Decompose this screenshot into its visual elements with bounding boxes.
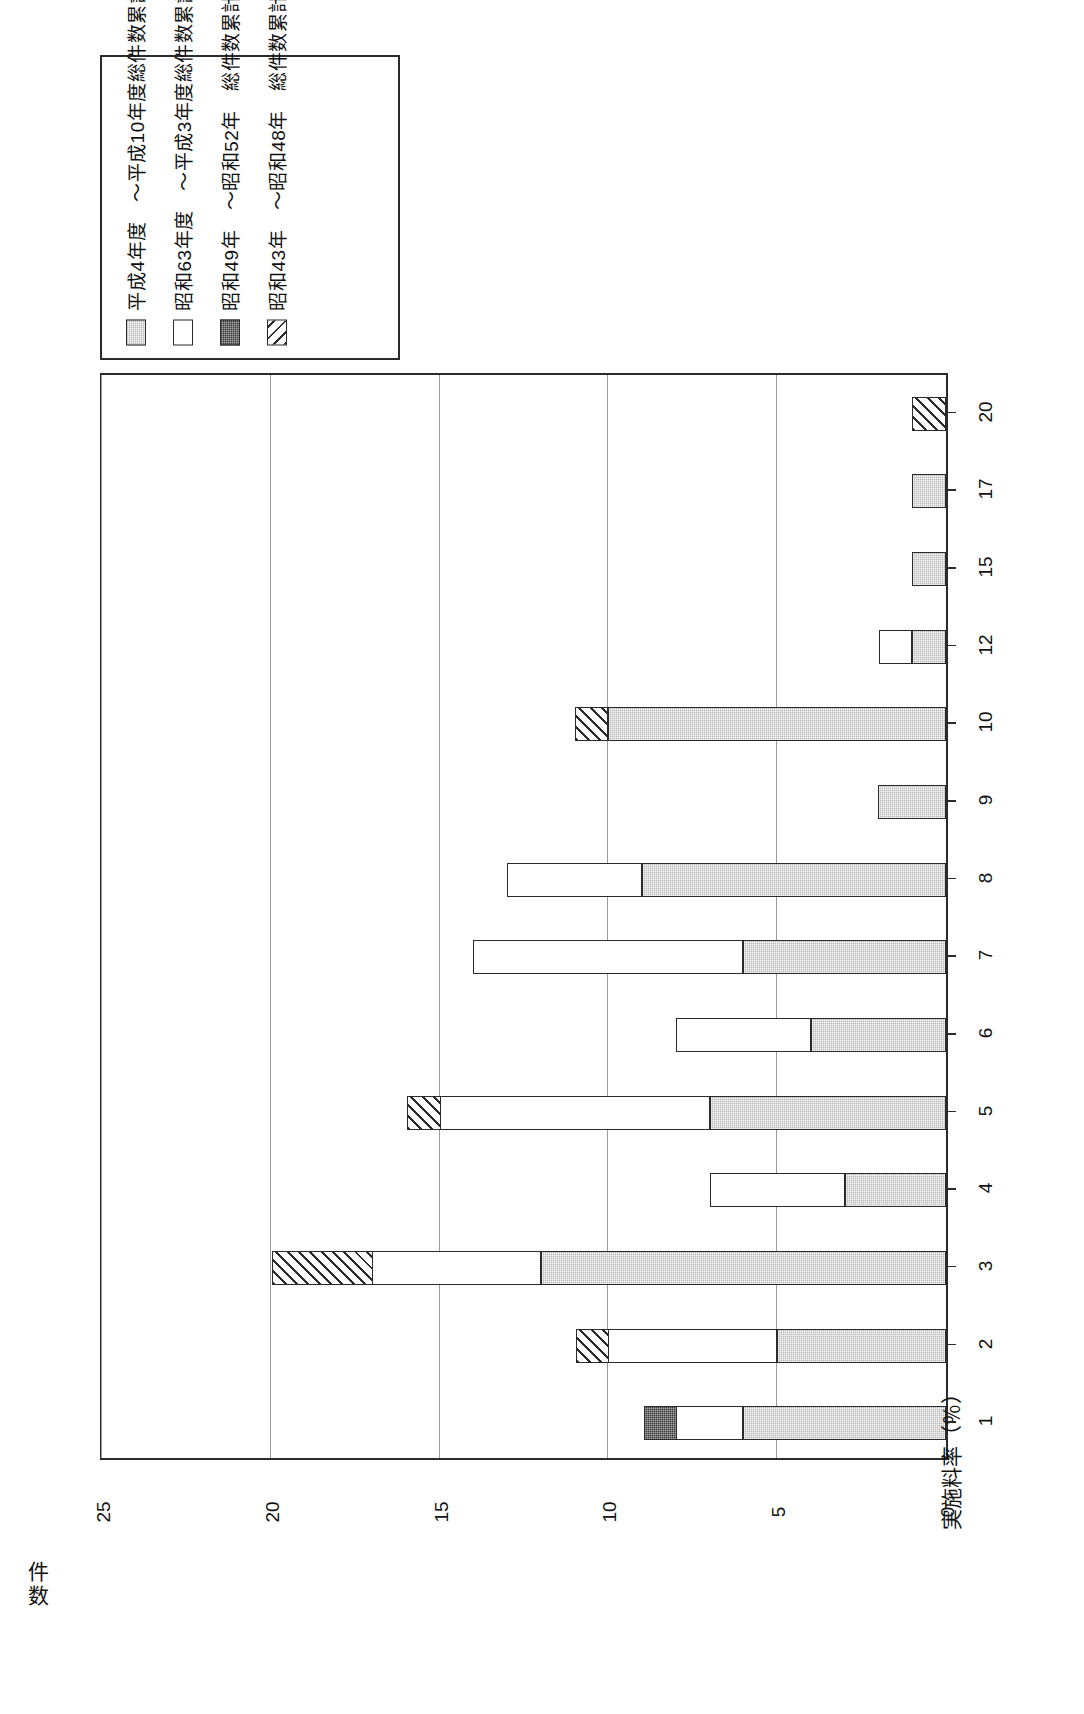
bar-row bbox=[912, 474, 946, 508]
bar-segment bbox=[676, 1406, 744, 1440]
legend-item: 昭和63年度 ～平成3年度総件数累計 bbox=[159, 0, 206, 345]
bar-segment bbox=[912, 630, 946, 664]
category-tick-mark bbox=[948, 1266, 956, 1268]
legend-label: 昭和43年 ～昭和48年 総件数累計 bbox=[263, 0, 290, 310]
bar-segment bbox=[912, 397, 946, 431]
category-tick-label: 10 bbox=[975, 702, 997, 742]
category-tick-mark bbox=[948, 878, 956, 880]
bar-segment bbox=[912, 474, 946, 508]
legend-item: 昭和43年 ～昭和48年 総件数累計 bbox=[253, 0, 300, 345]
category-tick-mark bbox=[948, 800, 956, 802]
bar-segment bbox=[507, 863, 642, 897]
category-tick-label: 5 bbox=[975, 1091, 997, 1131]
gridline bbox=[270, 375, 271, 1458]
bar-segment bbox=[608, 707, 946, 741]
value-tick-label: 5 bbox=[769, 1492, 789, 1532]
legend-swatch-hatch-icon bbox=[267, 319, 287, 345]
category-tick-label: 1 bbox=[975, 1401, 997, 1441]
legend-swatch-dark-icon bbox=[220, 319, 240, 345]
value-tick-label: 15 bbox=[432, 1492, 452, 1532]
legend-items: 平成4年度 ～平成10年度総件数累計 昭和63年度 ～平成3年度総件数累計 昭和… bbox=[106, 60, 394, 355]
bar-row bbox=[912, 552, 946, 586]
category-tick-mark bbox=[948, 412, 956, 414]
category-tick-label: 12 bbox=[975, 625, 997, 665]
bar-segment bbox=[642, 863, 946, 897]
bar-row bbox=[274, 1251, 946, 1285]
bar-segment bbox=[743, 1406, 946, 1440]
gridline bbox=[776, 375, 777, 1458]
bar-segment bbox=[845, 1173, 946, 1207]
category-tick-label: 6 bbox=[975, 1013, 997, 1053]
bar-row bbox=[578, 1329, 946, 1363]
legend-label: 平成4年度 ～平成10年度総件数累計 bbox=[122, 0, 149, 310]
bar-segment bbox=[473, 940, 743, 974]
value-axis-title-line2: 数 bbox=[28, 1584, 108, 1608]
bar-row bbox=[409, 1096, 946, 1130]
bar-row bbox=[475, 940, 946, 974]
category-tick-label: 17 bbox=[975, 469, 997, 509]
category-tick-mark bbox=[948, 1344, 956, 1346]
gridline bbox=[439, 375, 440, 1458]
category-tick-mark bbox=[948, 1111, 956, 1113]
value-tick-label: 10 bbox=[600, 1492, 620, 1532]
gridline bbox=[101, 375, 102, 1458]
bar-segment bbox=[676, 1018, 811, 1052]
bar-row bbox=[878, 785, 946, 819]
bar-segment bbox=[743, 940, 946, 974]
category-tick-label: 20 bbox=[975, 392, 997, 432]
value-tick-label: 25 bbox=[94, 1492, 114, 1532]
bar-segment bbox=[407, 1096, 441, 1130]
bar-row bbox=[711, 1173, 946, 1207]
legend-item: 平成4年度 ～平成10年度総件数累計 bbox=[112, 0, 159, 345]
bar-segment bbox=[878, 785, 946, 819]
category-tick-label: 7 bbox=[975, 935, 997, 975]
category-tick-mark bbox=[948, 1188, 956, 1190]
legend-swatch-white-icon bbox=[173, 319, 193, 345]
category-tick-mark bbox=[948, 1421, 956, 1423]
bar-segment bbox=[576, 1329, 610, 1363]
category-tick-mark bbox=[948, 489, 956, 491]
value-axis-title-line1: 件 bbox=[28, 1560, 108, 1584]
bar-segment bbox=[777, 1329, 946, 1363]
category-tick-mark bbox=[948, 955, 956, 957]
legend-label: 昭和49年 ～昭和52年 総件数累計 bbox=[216, 0, 243, 310]
bar-segment bbox=[710, 1173, 845, 1207]
legend-item: 昭和49年 ～昭和52年 総件数累計 bbox=[206, 0, 253, 345]
figure-page: 図2－31－1 他に分類されない製造業・産業の技術（イニシャル 有）の実施料率別… bbox=[0, 0, 1084, 1714]
bar-segment bbox=[811, 1018, 946, 1052]
category-tick-label: 9 bbox=[975, 780, 997, 820]
bar-segment bbox=[710, 1096, 946, 1130]
bar-segment bbox=[879, 630, 913, 664]
value-tick-label: 20 bbox=[263, 1492, 283, 1532]
value-tick-label: 0 bbox=[938, 1492, 958, 1532]
bar-row bbox=[645, 1406, 946, 1440]
legend-box: 平成4年度 ～平成10年度総件数累計 昭和63年度 ～平成3年度総件数累計 昭和… bbox=[100, 55, 400, 360]
category-tick-label: 15 bbox=[975, 547, 997, 587]
category-tick-label: 4 bbox=[975, 1168, 997, 1208]
category-tick-label: 3 bbox=[975, 1246, 997, 1286]
category-tick-mark bbox=[948, 567, 956, 569]
bar-row bbox=[880, 630, 946, 664]
category-tick-label: 2 bbox=[975, 1324, 997, 1364]
bar-segment bbox=[575, 707, 609, 741]
bar-segment bbox=[272, 1251, 373, 1285]
bar-row bbox=[576, 707, 946, 741]
category-tick-label: 8 bbox=[975, 858, 997, 898]
bar-segment bbox=[644, 1406, 678, 1440]
gridline bbox=[607, 375, 608, 1458]
bar-segment bbox=[372, 1251, 541, 1285]
bar-row bbox=[912, 397, 946, 431]
legend-swatch-gray-icon bbox=[126, 319, 146, 345]
category-tick-mark bbox=[948, 722, 956, 724]
category-tick-mark bbox=[948, 1033, 956, 1035]
chart-plot-area bbox=[100, 373, 948, 1460]
bar-row bbox=[678, 1018, 946, 1052]
bar-segment bbox=[440, 1096, 710, 1130]
bar-segment bbox=[541, 1251, 946, 1285]
value-axis-title: 件 数 bbox=[28, 1560, 108, 1608]
bar-segment bbox=[608, 1329, 777, 1363]
legend-label: 昭和63年度 ～平成3年度総件数累計 bbox=[169, 0, 196, 310]
category-tick-mark bbox=[948, 645, 956, 647]
bar-segment bbox=[912, 552, 946, 586]
bar-row bbox=[509, 863, 946, 897]
